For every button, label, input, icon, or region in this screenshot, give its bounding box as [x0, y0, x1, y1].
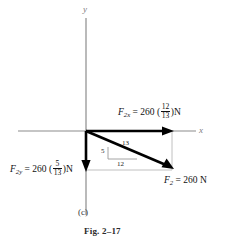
slope-triangle	[108, 147, 137, 159]
f2x-label: F2x = 260 (1213)N	[118, 103, 181, 120]
f2y-equals: =	[25, 164, 30, 174]
vector-diagram	[0, 0, 226, 243]
f2y-subscript: 2y	[16, 168, 22, 175]
vector-f2y	[81, 131, 90, 172]
f2-equals: =	[176, 175, 181, 185]
f2y-fraction: 513	[53, 160, 63, 177]
vector-f2-resultant	[86, 131, 174, 169]
x-axis-label: x	[199, 126, 203, 135]
triangle-horizontal-label: 12	[117, 160, 124, 168]
f2x-numerator: 12	[161, 103, 171, 111]
y-axis-label: y	[83, 5, 87, 14]
f2x-magnitude: 260	[140, 107, 154, 117]
f2-magnitude: 260	[183, 175, 197, 185]
f2y-denominator: 13	[53, 168, 63, 177]
figure-container: y x F2x = 260 (1213)N F2y = 260 (513)N F…	[0, 0, 226, 243]
triangle-hypotenuse-label: 13	[122, 139, 129, 147]
f2x-denominator: 13	[161, 111, 171, 120]
f2x-subscript: 2x	[124, 111, 130, 118]
f2-resultant-label: F2 = 260 N	[164, 176, 207, 187]
f2x-equals: =	[133, 107, 138, 117]
f2y-label: F2y = 260 (513)N	[10, 160, 73, 177]
vector-f2x	[86, 126, 174, 135]
f2-unit: N	[200, 175, 207, 185]
f2y-unit: N	[66, 164, 73, 174]
f2x-unit: N	[174, 107, 181, 117]
f2-subscript: 2	[170, 179, 173, 186]
panel-letter: (c)	[78, 208, 88, 217]
triangle-vertical-label: 5	[101, 147, 105, 155]
f2y-numerator: 5	[53, 160, 63, 168]
f2y-magnitude: 260	[32, 164, 46, 174]
figure-caption: Fig. 2–17	[84, 227, 121, 236]
f2x-fraction: 1213	[161, 103, 171, 120]
